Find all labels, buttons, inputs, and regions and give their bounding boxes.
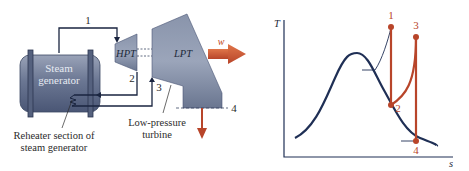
x-axis-label: s (449, 158, 453, 169)
reheat-rankine-diagram: Steam generator HPT LPT w (0, 0, 469, 171)
state-point-1 (388, 24, 394, 30)
process-2-3 (391, 37, 416, 105)
work-output-arrow (208, 44, 246, 64)
ts-diagram: T s 1 2 3 4 (274, 9, 453, 169)
state-point-3 (413, 34, 419, 40)
steam-generator: Steam generator (20, 50, 100, 117)
schematic-state-4: 4 (231, 102, 237, 114)
steam-generator-label-line1: Steam (45, 62, 73, 74)
exhaust-arrow-icon (197, 128, 207, 139)
steam-generator-label-line2: generator (38, 74, 80, 86)
work-label: w (218, 36, 225, 47)
lpt-leader-line (163, 85, 171, 113)
schematic: Steam generator HPT LPT w (13, 14, 246, 153)
lpt-caption-line1: Low-pressure (128, 117, 186, 128)
pipe-to-hpt (59, 28, 117, 53)
schematic-state-3: 3 (156, 81, 162, 93)
isobar-line (362, 28, 391, 70)
state-point-2 (388, 102, 394, 108)
reheater-caption-line1: Reheater section of (13, 130, 95, 141)
schematic-state-2: 2 (129, 72, 135, 84)
lpt-label: LPT (173, 48, 193, 59)
axes (284, 20, 453, 157)
ts-state-1: 1 (388, 9, 394, 21)
low-pressure-turbine (152, 14, 222, 108)
reheater-caption-line2: steam generator (21, 142, 88, 153)
ts-state-3: 3 (413, 19, 419, 31)
ts-state-4: 4 (413, 144, 419, 156)
lpt-caption-line2: turbine (142, 129, 172, 140)
ts-state-2: 2 (395, 102, 401, 114)
y-axis-label: T (274, 18, 281, 29)
hpt-label: HPT (115, 48, 137, 59)
schematic-state-1: 1 (85, 14, 91, 26)
